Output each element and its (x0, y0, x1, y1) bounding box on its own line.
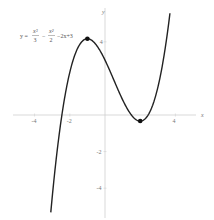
x-tick-label: -4 (32, 118, 37, 124)
function-plot: -4-24 4-2-4 x y y = x³ 3 − x² 2 −2x+3 (0, 0, 214, 220)
equation-term2-numerator: x² (48, 28, 54, 34)
equation-label: y = x³ 3 − x² 2 −2x+3 (20, 28, 73, 43)
equation-lhs: y = (20, 33, 29, 39)
y-tick-label: -2 (97, 149, 102, 155)
x-tick-label: -2 (67, 118, 72, 124)
equation-rest: −2x+3 (57, 33, 73, 39)
equation-term1-numerator: x³ (32, 28, 38, 34)
x-axis-label: x (200, 112, 204, 118)
function-curve (51, 13, 170, 212)
y-tick-label: -4 (97, 185, 102, 191)
local-maximum-point (85, 36, 90, 41)
equation-term2-denominator: 2 (50, 37, 53, 43)
equation-term1-denominator: 3 (34, 37, 37, 43)
local-minimum-point (138, 119, 143, 124)
x-tick-label: 4 (172, 118, 175, 124)
equation-minus: − (42, 33, 46, 39)
y-axis-label: y (101, 9, 105, 15)
y-tick-label: 4 (100, 39, 103, 45)
